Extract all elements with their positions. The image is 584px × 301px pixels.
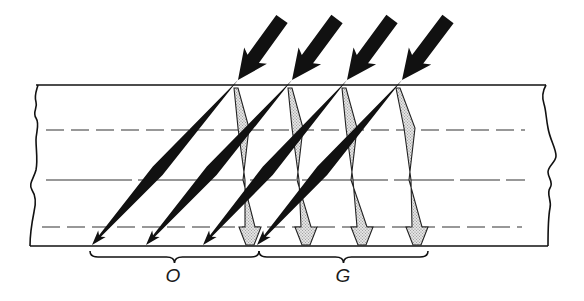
right-break-edge [543, 85, 556, 246]
refraction-diagram: O G [0, 0, 584, 301]
reflected-ray-arrow-4 [396, 88, 428, 245]
brace-right-group [259, 251, 428, 263]
label-group-g: G [336, 266, 351, 285]
incident-ray-arrow-4 [402, 15, 454, 80]
reflected-ray-arrow-1 [234, 88, 261, 245]
group-braces [90, 251, 428, 263]
incident-ray-arrow-3 [347, 15, 398, 80]
label-group-o: O [166, 266, 181, 285]
reflected-ray-arrow-3 [342, 88, 373, 245]
diagram-canvas [0, 0, 584, 301]
reflected-ray-arrow-2 [288, 88, 317, 245]
incident-ray-arrow-1 [238, 15, 288, 80]
incident-ray-arrow-2 [292, 15, 343, 80]
left-break-edge [30, 85, 38, 246]
brace-left-group [90, 251, 259, 263]
